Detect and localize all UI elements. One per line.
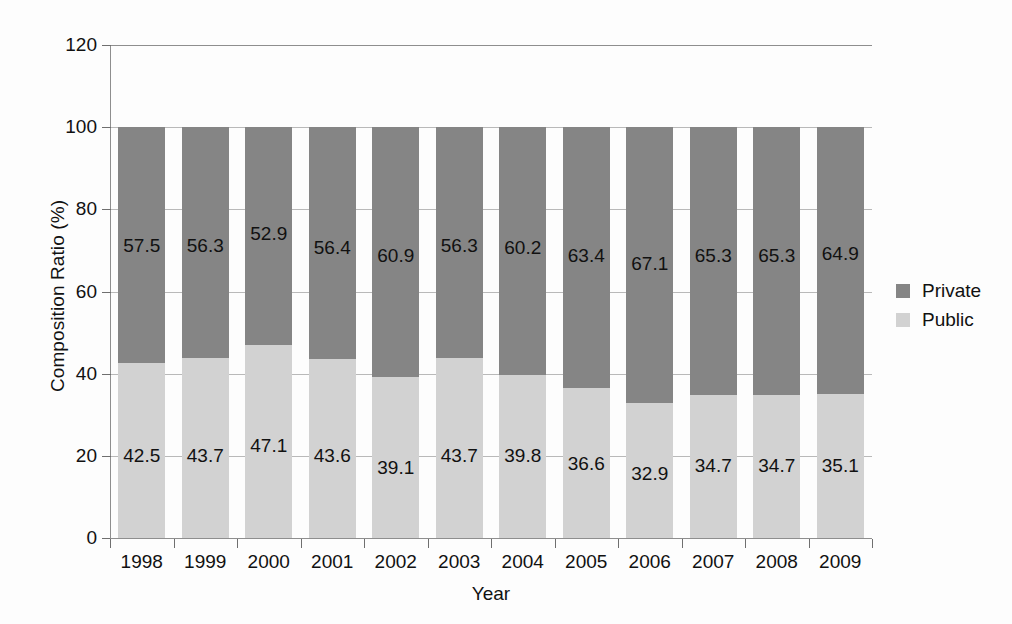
y-tick-label: 0 bbox=[86, 527, 97, 549]
x-tick-mark bbox=[618, 539, 619, 548]
y-tick-mark bbox=[102, 45, 111, 46]
x-tick-mark bbox=[301, 539, 302, 548]
bar-column[interactable] bbox=[182, 127, 229, 538]
x-tick-label: 2008 bbox=[756, 551, 798, 573]
x-tick-mark bbox=[237, 539, 238, 548]
data-label-private: 60.9 bbox=[372, 245, 419, 267]
x-tick-label: 2001 bbox=[311, 551, 353, 573]
data-label-private: 67.1 bbox=[626, 253, 673, 275]
data-label-public: 39.8 bbox=[499, 445, 546, 467]
y-tick-label: 120 bbox=[65, 34, 97, 56]
x-tick-label: 2002 bbox=[375, 551, 417, 573]
y-tick-mark bbox=[102, 456, 111, 457]
y-tick-label: 40 bbox=[76, 363, 97, 385]
x-tick-label: 2004 bbox=[502, 551, 544, 573]
x-tick-label: 2005 bbox=[565, 551, 607, 573]
data-label-public: 43.7 bbox=[436, 445, 483, 467]
x-tick-label: 2003 bbox=[438, 551, 480, 573]
y-tick-mark bbox=[102, 127, 111, 128]
x-tick-label: 1999 bbox=[184, 551, 226, 573]
x-tick-mark bbox=[555, 539, 556, 548]
data-label-public: 32.9 bbox=[626, 463, 673, 485]
data-label-public: 35.1 bbox=[817, 455, 864, 477]
legend-swatch-icon bbox=[896, 313, 910, 327]
data-label-private: 52.9 bbox=[245, 223, 292, 245]
x-tick-label: 2007 bbox=[692, 551, 734, 573]
x-tick-mark bbox=[872, 539, 873, 548]
data-label-private: 56.3 bbox=[182, 235, 229, 257]
y-tick-label: 20 bbox=[76, 445, 97, 467]
data-label-public: 36.6 bbox=[563, 453, 610, 475]
bar-column[interactable] bbox=[436, 127, 483, 538]
x-tick-label: 2009 bbox=[819, 551, 861, 573]
y-axis-title: Composition Ratio (%) bbox=[47, 146, 69, 446]
data-label-private: 56.3 bbox=[436, 235, 483, 257]
y-tick-label: 60 bbox=[76, 281, 97, 303]
data-label-private: 57.5 bbox=[118, 235, 165, 257]
x-tick-mark bbox=[491, 539, 492, 548]
data-label-private: 65.3 bbox=[753, 245, 800, 267]
bar-column[interactable] bbox=[118, 127, 165, 538]
bar-column[interactable] bbox=[309, 127, 356, 538]
y-tick-mark bbox=[102, 374, 111, 375]
bar-column[interactable] bbox=[499, 127, 546, 538]
legend-swatch-icon bbox=[896, 284, 910, 298]
data-label-public: 34.7 bbox=[753, 455, 800, 477]
y-tick-label: 100 bbox=[65, 116, 97, 138]
bar-column[interactable] bbox=[245, 127, 292, 538]
chart-legend: PrivatePublic bbox=[896, 276, 981, 334]
data-label-public: 43.7 bbox=[182, 445, 229, 467]
data-label-public: 39.1 bbox=[372, 457, 419, 479]
data-label-private: 64.9 bbox=[817, 243, 864, 265]
y-tick-label: 80 bbox=[76, 198, 97, 220]
x-axis-title: Year bbox=[110, 583, 872, 605]
legend-item[interactable]: Public bbox=[896, 305, 981, 334]
y-tick-mark bbox=[102, 292, 111, 293]
plot-area: 020406080100120 57.542.556.343.752.947.1… bbox=[110, 45, 872, 538]
legend-label: Private bbox=[922, 280, 981, 302]
data-label-private: 63.4 bbox=[563, 245, 610, 267]
x-tick-mark bbox=[428, 539, 429, 548]
chart-page: Composition Ratio (%) Year 0204060801001… bbox=[0, 0, 1012, 624]
legend-item[interactable]: Private bbox=[896, 276, 981, 305]
data-label-public: 47.1 bbox=[245, 435, 292, 457]
gridline bbox=[110, 45, 872, 46]
data-label-public: 34.7 bbox=[690, 455, 737, 477]
x-tick-label: 1998 bbox=[121, 551, 163, 573]
legend-label: Public bbox=[922, 309, 974, 331]
x-tick-mark bbox=[364, 539, 365, 548]
data-label-public: 42.5 bbox=[118, 445, 165, 467]
x-tick-mark bbox=[174, 539, 175, 548]
data-label-public: 43.6 bbox=[309, 445, 356, 467]
x-tick-label: 2000 bbox=[248, 551, 290, 573]
x-tick-mark bbox=[809, 539, 810, 548]
x-tick-label: 2006 bbox=[629, 551, 671, 573]
data-label-private: 65.3 bbox=[690, 245, 737, 267]
y-tick-mark bbox=[102, 209, 111, 210]
bar-column[interactable] bbox=[563, 127, 610, 538]
x-tick-mark bbox=[745, 539, 746, 548]
x-tick-mark bbox=[110, 539, 111, 548]
data-label-private: 60.2 bbox=[499, 237, 546, 259]
x-tick-mark bbox=[682, 539, 683, 548]
data-label-private: 56.4 bbox=[309, 237, 356, 259]
